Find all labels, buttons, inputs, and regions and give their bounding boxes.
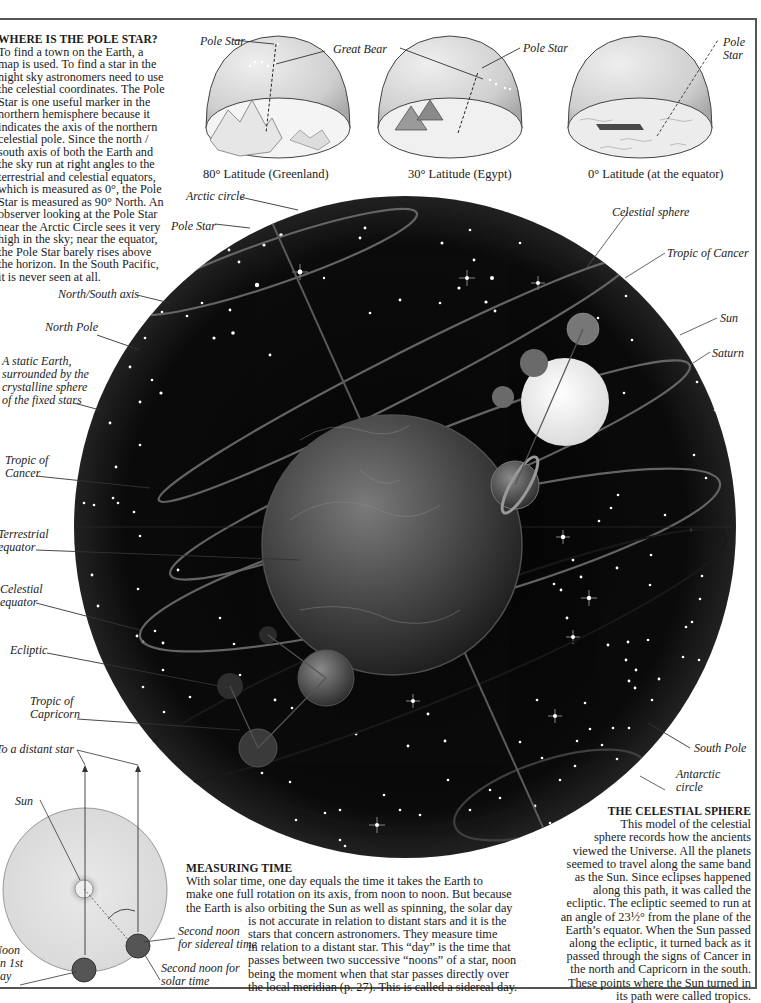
pole-star-heading: WHERE IS THE POLE STAR? [0,33,166,46]
measuring-time-block: MEASURING TIME With solar time, one day … [186,862,517,994]
dome2-caption: 30° Latitude (Egypt) [408,167,512,182]
dome1-caption: 80° Latitude (Greenland) [203,167,329,182]
label-arctic-circle: Arctic circle [186,190,245,203]
solar-time-diagram [3,750,175,985]
dome-equator [568,36,718,158]
label-ecliptic: Ecliptic [10,644,47,657]
dome-greenland [206,36,350,158]
label-sun-small: Sun [15,795,33,808]
label-antarctic-circle: Antarctic circle [676,768,720,794]
label-distant-star: To a distant star [0,743,74,756]
label-tropic-capricorn: Tropic of Capricorn [30,695,80,721]
celestial-sphere-model [60,192,760,910]
dome1-pole-star-label: Pole Star [200,35,245,48]
label-south-pole: South Pole [694,742,746,755]
label-noon-first-day: Noon on 1st day [0,944,23,983]
label-sun: Sun [720,312,738,325]
dome3-star-label: Star [723,49,743,62]
label-saturn: Saturn [712,347,744,360]
label-north-south-axis: North/South axis [58,288,139,301]
label-terrestrial-equator: Terrestrial equator [0,528,48,554]
celestial-sphere-block: THE CELESTIAL SPHERE This model of the c… [500,805,751,1003]
dome2-pole-star-label: Pole Star [523,42,568,55]
pole-star-sidebar: WHERE IS THE POLE STAR? To find a town o… [0,33,166,283]
planet [492,386,514,408]
dome-egypt [378,36,522,158]
label-tropic-cancer-right: Tropic of Cancer [667,247,749,260]
label-celestial-sphere: Celestial sphere [612,206,689,219]
dome3-caption: 0° Latitude (at the equator) [588,167,724,182]
earth-globe [262,415,522,675]
label-tropic-cancer-left: Tropic of Cancer [5,454,48,480]
label-celestial-equator: Celestial equator [0,583,43,609]
label-pole-star: Pole Star [171,220,216,233]
label-north-pole: North Pole [45,321,98,334]
dome1-great-bear-label: Great Bear [333,43,387,56]
pole-star-body: To find a town on the Earth, a map is us… [0,46,166,284]
label-static-earth: A static Earth, surrounded by the crysta… [2,355,89,407]
planet [520,349,548,377]
